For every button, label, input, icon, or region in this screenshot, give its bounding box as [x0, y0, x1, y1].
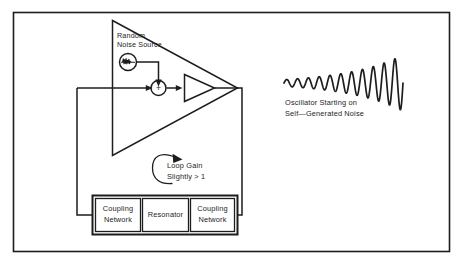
oscillator-block-diagram: Random Noise Source + Loop Gain Sl	[0, 0, 462, 265]
coupling-network-left-label-line2: Network	[104, 215, 132, 224]
loop-gain-label-line1: Loop Gain	[167, 161, 202, 170]
coupling-network-right-label-line1: Coupling	[197, 204, 227, 213]
loop-gain-label-line2: Slightly > 1	[167, 172, 205, 181]
coupling-network-right-label-line2: Network	[198, 215, 226, 224]
coupling-network-left-label-line1: Coupling	[103, 204, 133, 213]
summing-node-plus-symbol: +	[156, 83, 161, 93]
waveform-caption-line1: Oscillator Starting on	[285, 98, 357, 107]
noise-source-label-line2: Noise Source	[117, 40, 162, 49]
resonator-label: Resonator	[148, 210, 184, 219]
figure-root: Random Noise Source + Loop Gain Sl	[0, 0, 462, 265]
noise-source-label-line1: Random	[117, 31, 145, 40]
waveform-caption-line2: Self—Generated Noise	[285, 109, 364, 118]
